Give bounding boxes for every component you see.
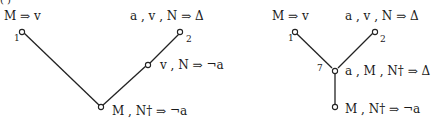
right-sequent-2: a , v , N ⇒ Δ xyxy=(345,9,419,23)
left-sequent-mid: v , N ⇒ ¬a xyxy=(160,58,224,72)
left-sequent-2: a , v , N ⇒ Δ xyxy=(130,9,204,23)
right-sequent-1: M ⇒ v xyxy=(272,9,309,23)
node-root-left xyxy=(98,104,103,109)
node-7-right xyxy=(332,68,337,73)
node-mid-left xyxy=(145,62,150,67)
left-node-label-1: 1 xyxy=(14,33,20,43)
right-node-label-7: 7 xyxy=(317,63,323,73)
node-root-right xyxy=(332,104,337,109)
right-node-label-1: 1 xyxy=(288,33,294,43)
right-sequent-root: M , N† ⇒ ¬a xyxy=(345,102,420,116)
right-node-label-2: 2 xyxy=(380,34,386,44)
node-1-left xyxy=(19,29,24,34)
left-sequent-root: M , N† ⇒ ¬a xyxy=(112,104,187,118)
right-sequent-7: a , M , N† ⇒ Δ xyxy=(345,64,430,78)
left-node-label-2: 2 xyxy=(186,34,192,44)
left-sequent-1: M ⇒ v xyxy=(4,9,41,23)
node-2-right xyxy=(372,29,377,34)
node-2-left xyxy=(177,29,182,34)
